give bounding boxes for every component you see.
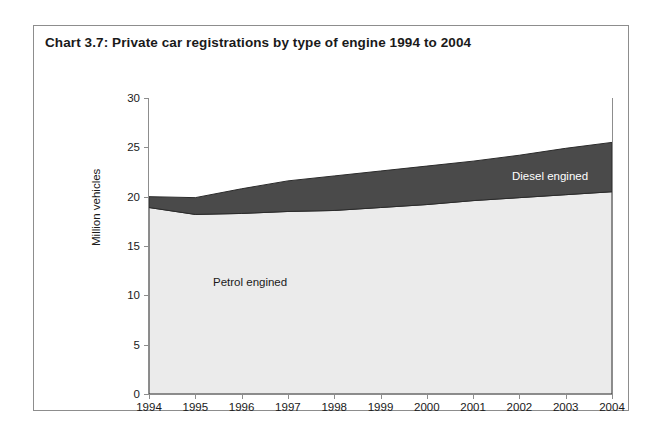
screenshot-canvas: Chart 3.7: Private car registrations by …: [0, 0, 661, 434]
x-tick-mark: [427, 394, 428, 399]
x-tick-label: 2001: [460, 401, 486, 413]
x-tick-label: 1996: [229, 401, 255, 413]
x-tick-mark: [381, 394, 382, 399]
x-tick-label: 2002: [507, 401, 533, 413]
x-tick-label: 2004: [599, 401, 625, 413]
y-tick-label: 0: [134, 388, 140, 400]
y-tick-mark: [144, 98, 149, 99]
y-tick-label: 15: [127, 240, 140, 252]
x-tick-label: 1997: [275, 401, 301, 413]
y-tick-mark: [144, 345, 149, 346]
y-tick-mark: [144, 295, 149, 296]
area-petrol-engined: [149, 192, 612, 394]
y-tick-label: 20: [127, 191, 140, 203]
x-tick-mark: [334, 394, 335, 399]
x-tick-label: 1999: [368, 401, 394, 413]
y-tick-label: 25: [127, 141, 140, 153]
y-tick-label: 5: [134, 339, 140, 351]
plot-right-edge: [612, 98, 613, 394]
plot-region: 051015202530 199419951996199719981999200…: [149, 98, 612, 394]
x-tick-label: 1995: [183, 401, 209, 413]
plot-area: [149, 98, 612, 394]
x-tick-label: 2003: [553, 401, 579, 413]
y-tick-label: 30: [127, 92, 140, 104]
x-tick-label: 1994: [136, 401, 162, 413]
y-tick-mark: [144, 197, 149, 198]
x-tick-mark: [473, 394, 474, 399]
x-tick-mark: [519, 394, 520, 399]
x-tick-mark: [566, 394, 567, 399]
x-tick-mark: [195, 394, 196, 399]
y-tick-mark: [144, 246, 149, 247]
chart-figure-frame: Chart 3.7: Private car registrations by …: [33, 25, 629, 411]
y-tick-label: 10: [127, 289, 140, 301]
x-tick-mark: [242, 394, 243, 399]
stacked-area-series: [149, 98, 612, 394]
x-tick-label: 1998: [321, 401, 347, 413]
y-axis-label: Million vehicles: [90, 169, 102, 246]
x-tick-mark: [149, 394, 150, 399]
x-tick-label: 2000: [414, 401, 440, 413]
y-tick-mark: [144, 147, 149, 148]
x-tick-mark: [612, 394, 613, 399]
chart-title: Chart 3.7: Private car registrations by …: [45, 35, 471, 50]
x-tick-mark: [288, 394, 289, 399]
